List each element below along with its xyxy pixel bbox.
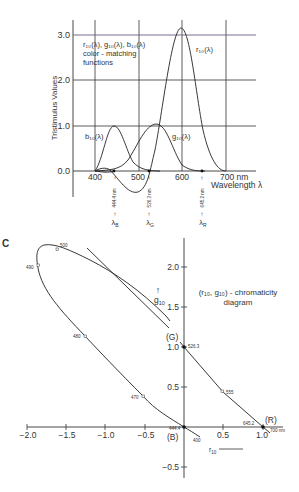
arrow-up-icon: ↑	[148, 175, 151, 181]
annotation-645: 645.2 nm	[200, 188, 205, 207]
curve-label-g: g₁₀(λ)	[172, 132, 191, 141]
y-tick: 2.0	[57, 75, 70, 85]
b10-curve	[95, 126, 160, 171]
label-555: 555	[226, 390, 234, 395]
marker-490	[37, 264, 40, 267]
label-6452: 645.2	[243, 421, 255, 426]
label-470: 470	[131, 395, 139, 400]
r-tick: −1.5	[59, 430, 76, 440]
marker-526	[148, 170, 151, 173]
y-tick: 3.0	[57, 30, 70, 40]
legend-line: color - matching	[83, 49, 136, 58]
arrow-up-icon: ↑	[148, 211, 151, 217]
r-tick: 1.0	[256, 430, 268, 440]
arrow-up-icon: ↑	[201, 211, 204, 217]
arrow-up-icon: ↑	[201, 175, 204, 181]
label-490: 490	[26, 265, 34, 270]
x-tick: 600	[175, 172, 189, 182]
arrow-up-icon: ↑	[114, 211, 117, 217]
x-tick: 500	[131, 172, 145, 182]
label-480: 480	[73, 334, 81, 339]
label-700: 700 nm	[270, 428, 285, 433]
marker-444	[113, 170, 116, 173]
g-tick: 1.5	[167, 302, 179, 312]
arrow-up-icon: ↑	[114, 175, 117, 181]
g-tick: −0.5	[162, 462, 179, 472]
panel-label: C	[2, 238, 9, 249]
marker-555	[221, 390, 224, 393]
r-tick: 0.5	[217, 430, 229, 440]
curve-label-b: b₁₀(λ)	[85, 132, 104, 141]
g-tick: 2.0	[167, 262, 179, 272]
arrow-up-icon: ↑	[156, 285, 161, 295]
r-axis-label: r10	[209, 446, 217, 455]
chromaticity-chart: C −2.0 −1.5 −1.0 −0.5 0.5 1.0 2.0 1.5 1.…	[2, 238, 285, 478]
g-tick: 0.5	[167, 382, 179, 392]
y-axis-label: Tristimulus Values	[50, 76, 59, 140]
marker-480	[84, 335, 87, 338]
diagram-title: diagram	[224, 298, 253, 307]
primary-r-label: (R)	[265, 415, 277, 425]
label-4444: 444.4	[169, 426, 181, 431]
primary-g-point	[182, 345, 186, 349]
locus-rg-line	[180, 342, 270, 433]
marker-645	[201, 170, 204, 173]
primary-b-label: (B)	[167, 432, 179, 442]
annotation-444: 444.4 nm	[112, 188, 117, 207]
lambda-b: λB	[111, 218, 119, 228]
primary-b-point	[182, 425, 186, 429]
r-tick: −2.0	[20, 430, 37, 440]
diagram-title: (r₁₀, g₁₀) - chromaticity	[199, 288, 278, 297]
legend-line: functions	[83, 58, 113, 67]
primary-r-point	[261, 425, 265, 429]
lambda-r: λR	[199, 218, 207, 228]
r-tick: −1.0	[98, 430, 115, 440]
label-400: 400	[193, 438, 201, 443]
y-tick: 1.0	[57, 121, 70, 131]
x-axis-label: Wavelength λ	[211, 180, 263, 190]
label-5263: 526.3	[188, 344, 200, 349]
marker-500	[56, 248, 59, 251]
legend-line: r₁₀(λ), g₁₀(λ), b₁₀(λ)	[83, 40, 146, 49]
curve-label-r: r₁₀(λ)	[196, 45, 213, 54]
primary-g-label: (G)	[166, 332, 178, 342]
lambda-g: λG	[146, 218, 154, 228]
g-axis-label: g10	[154, 295, 165, 306]
label-500: 500	[60, 243, 68, 248]
g-tick: 1.0	[167, 342, 179, 352]
color-matching-chart: 3.0 2.0 1.0 0.0 400 500 600 700 nm Wavel…	[50, 20, 263, 228]
marker-470	[142, 395, 145, 398]
y-tick: 0.0	[57, 166, 70, 176]
annotation-526: 526.3 nm	[147, 188, 152, 207]
r-tick: −0.5	[138, 430, 155, 440]
x-tick: 400	[88, 172, 102, 182]
